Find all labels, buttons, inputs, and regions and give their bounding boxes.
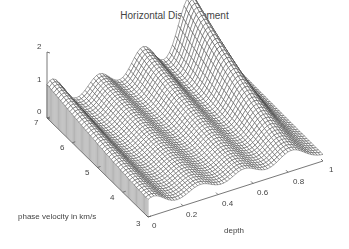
x-tick-1: 1 — [329, 166, 333, 174]
x-tick-0.6: 0.6 — [257, 189, 268, 197]
z-tick-1: 1 — [37, 76, 41, 84]
z-tick-0: 0 — [37, 108, 41, 116]
x-tick-0.8: 0.8 — [293, 178, 304, 186]
y-tick-6: 6 — [60, 144, 64, 152]
x-axis-label: depth — [224, 227, 244, 235]
y-tick-3: 3 — [136, 220, 140, 228]
x-tick-0.4: 0.4 — [222, 200, 233, 208]
x-tick-0: 0 — [152, 222, 156, 230]
y-tick-4: 4 — [110, 194, 114, 202]
y-tick-5: 5 — [85, 169, 89, 177]
y-tick-7: 7 — [34, 119, 38, 127]
x-tick-0.2: 0.2 — [186, 211, 197, 219]
y-axis-label: phase velocity in km/s — [18, 213, 96, 221]
z-tick-2: 2 — [37, 43, 41, 51]
